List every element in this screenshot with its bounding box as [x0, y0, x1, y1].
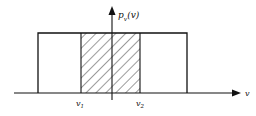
v2-label: v2 — [136, 99, 145, 109]
v1-label: v1 — [76, 99, 84, 109]
y-axis-arrow-icon — [109, 6, 116, 15]
x-axis-arrow-icon — [232, 90, 241, 97]
shaded-region — [81, 33, 140, 93]
probability-density-diagram: pv(v) v v1 v2 — [0, 0, 256, 116]
x-axis-label: v — [245, 89, 250, 98]
y-axis-label: pv(v) — [118, 10, 140, 22]
